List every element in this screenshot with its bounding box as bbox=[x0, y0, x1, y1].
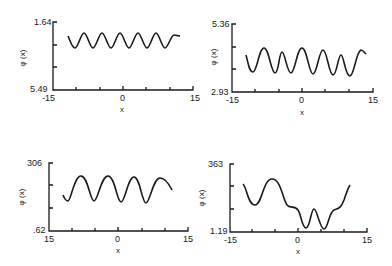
panel-3-curve bbox=[63, 176, 172, 203]
panel-2-curve bbox=[246, 48, 366, 76]
panel-4-x-mid-label: 0 bbox=[295, 235, 300, 245]
panel-4-curve bbox=[243, 179, 350, 229]
panel-2-x-left-label: -15 bbox=[226, 95, 239, 105]
figure: 1.64 5.49 -15 0 15 x φ (x) 5.36 2.93 -15… bbox=[0, 0, 392, 266]
panel-1-x-axis-title: x bbox=[120, 105, 124, 114]
panel-1-y-top-label: 1.64 bbox=[34, 17, 52, 27]
panel-1-axes bbox=[53, 22, 193, 90]
panel-3-x-axis-title: x bbox=[116, 246, 120, 255]
panel-1-x-right-label: 15 bbox=[190, 93, 200, 103]
panel-4-y-top-label: 363 bbox=[208, 159, 223, 169]
panel-1-x-mid-label: 0 bbox=[120, 93, 125, 103]
panel-4-y-axis-title: φ (x) bbox=[197, 189, 206, 206]
panel-2-y-axis-title: φ (x) bbox=[209, 48, 218, 65]
panel-1-x-left-label: -15 bbox=[42, 93, 55, 103]
panel-3-x-mid-label: 0 bbox=[115, 234, 120, 244]
panel-1-y-axis-title: φ (x) bbox=[18, 49, 27, 66]
panel-2-x-mid-label: 0 bbox=[299, 95, 304, 105]
panel-3-x-right-label: 15 bbox=[183, 234, 193, 244]
panel-1: 1.64 5.49 -15 0 15 x φ (x) bbox=[18, 17, 200, 114]
panel-2-x-axis-title: x bbox=[300, 108, 304, 117]
panel-2-y-top-label: 5.36 bbox=[212, 19, 230, 29]
panel-4-x-right-label: 15 bbox=[362, 235, 372, 245]
panel-2-axes bbox=[232, 24, 373, 92]
panel-3-x-left-label: 15 bbox=[44, 234, 54, 244]
panel-4-axes bbox=[230, 164, 367, 232]
panel-1-curve bbox=[68, 33, 180, 48]
panel-4: 363 1.19 -15 0 15 x φ (x) bbox=[197, 159, 372, 256]
panel-3: 306 .62 15 0 15 x φ (x) bbox=[17, 158, 193, 255]
panel-2-x-right-label: 15 bbox=[368, 95, 378, 105]
panel-3-y-axis-title: φ (x) bbox=[17, 188, 26, 205]
panel-4-x-left-label: -15 bbox=[224, 235, 237, 245]
panel-2: 5.36 2.93 -15 0 15 x φ (x) bbox=[209, 19, 378, 117]
panel-3-y-top-label: 306 bbox=[27, 158, 42, 168]
panel-4-x-axis-title: x bbox=[296, 247, 300, 256]
